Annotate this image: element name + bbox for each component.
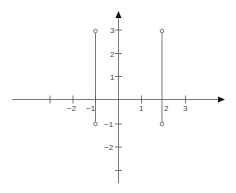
open-circle-endpoint [94, 29, 98, 33]
y-label-neg2: −2 [104, 143, 114, 152]
y-axis-arrow-icon [116, 11, 122, 18]
open-circle-endpoint [160, 122, 164, 126]
y-label-2: 2 [110, 50, 115, 59]
x-label-neg2: −2 [67, 104, 77, 113]
open-circle-endpoint [94, 122, 98, 126]
coordinate-plane: −2 −1 1 2 3 3 2 1 −1 −2 [0, 0, 236, 193]
y-label-neg1: −1 [104, 120, 114, 129]
x-label-3: 3 [183, 104, 188, 113]
y-label-3: 3 [110, 26, 115, 35]
x-label-2: 2 [164, 104, 169, 113]
open-circle-endpoint [160, 29, 164, 33]
y-label-1: 1 [110, 73, 115, 82]
x-label-1: 1 [139, 104, 144, 113]
x-axis-arrow-icon [218, 97, 225, 103]
x-label-neg1: −1 [86, 104, 96, 113]
